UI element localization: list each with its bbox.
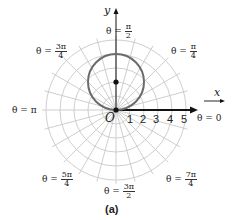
y-axis-arrowhead-icon <box>114 8 119 14</box>
angle-label-7pi-over-4: θ = 7π4 <box>166 171 197 188</box>
x-axis-arrowhead-icon <box>220 99 225 103</box>
tick-3: 3 <box>153 113 159 125</box>
angle-label-pi-over-2: θ = π2 <box>106 23 132 40</box>
angle-label-3pi-over-4: θ = 3π4 <box>36 43 67 60</box>
origin-label: O <box>105 111 115 125</box>
tick-4: 4 <box>167 113 173 125</box>
angle-label-pi: θ = π <box>12 106 37 115</box>
y-axis-label: y <box>104 4 110 17</box>
x-axis-label: x <box>214 86 220 99</box>
center-point <box>113 79 118 84</box>
angle-label-0: θ = 0 <box>197 114 221 123</box>
figure-caption: (a) <box>105 203 118 215</box>
tick-5: 5 <box>181 113 187 125</box>
angle-label-pi-over-4: θ = π4 <box>171 43 197 60</box>
tick-2: 2 <box>140 113 146 125</box>
angle-label-5pi-over-4: θ = 5π4 <box>42 171 73 188</box>
tick-1: 1 <box>127 113 133 125</box>
angle-label-3pi-over-2: θ = 3π2 <box>104 183 135 200</box>
